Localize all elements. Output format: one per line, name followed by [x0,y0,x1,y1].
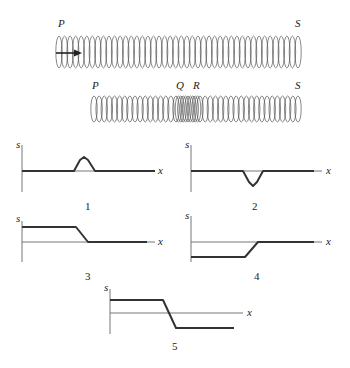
x-axis-label: x [325,164,331,176]
s-axis-label: s [104,281,108,293]
spring-uncompressed: PS [56,17,301,68]
graph-2: sx2 [185,138,331,212]
springs: PSPQRS [56,17,301,122]
displacement-curve [191,171,314,186]
point-label-q: Q [176,79,184,91]
physics-figure: PSPQRS sx1sx2sx3sx4sx5 [0,0,350,368]
s-axis-label: s [16,138,20,150]
graph-number: 2 [252,200,258,212]
graph-1: sx1 [16,138,163,212]
graph-5: sx5 [104,281,252,352]
point-label-p: P [57,17,65,29]
point-label-s: S [295,17,301,29]
x-axis-label: x [246,306,252,318]
point-label-r: R [192,79,200,91]
graph-3: sx3 [16,212,163,282]
point-label-p: P [91,79,99,91]
graph-number: 3 [85,270,91,282]
spring-compressed: PQRS [91,79,301,122]
s-axis-label: s [185,209,189,221]
graph-number: 5 [172,340,178,352]
displacement-curve [110,300,234,328]
x-axis-label: x [157,164,163,176]
s-axis-label: s [185,138,189,150]
x-axis-label: x [157,235,163,247]
graph-4: sx4 [185,209,331,282]
point-label-s: S [295,79,301,91]
s-axis-label: s [16,212,20,224]
displacement-curve [22,227,147,242]
displacement-graphs: sx1sx2sx3sx4sx5 [16,138,331,352]
displacement-curve [191,242,314,257]
graph-number: 4 [254,270,260,282]
displacement-curve [22,157,155,171]
graph-number: 1 [85,200,91,212]
x-axis-label: x [325,235,331,247]
